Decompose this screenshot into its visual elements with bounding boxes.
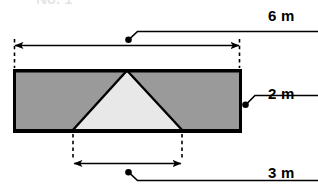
dimension-label-width: 6 m [268,8,294,23]
diagram-canvas: No. 1 [0,0,318,196]
dimension-label-base: 3 m [268,165,294,180]
bottom-extension-lines [73,134,182,160]
leader-line-width [125,32,318,44]
top-extension-lines [15,39,240,68]
dimension-label-height: 2 m [268,86,294,101]
